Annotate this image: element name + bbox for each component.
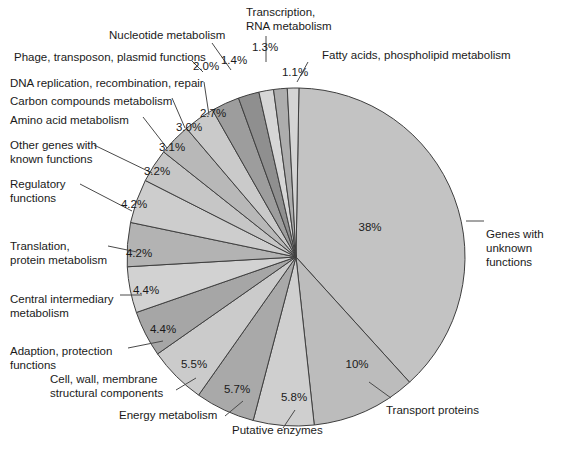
category-label-cell-wall-membrane: Cell, wall, membrane structural componen… bbox=[50, 372, 163, 400]
slice-percent-nucleotide: 1.4% bbox=[221, 54, 247, 66]
category-label-nucleotide: Nucleotide metabolism bbox=[109, 28, 225, 42]
slice-percent-other-known: 3.2% bbox=[144, 165, 170, 177]
slice-percent-central-intermediary: 4.4% bbox=[133, 284, 159, 296]
slice-percent-transcription-rna: 1.3% bbox=[252, 41, 278, 53]
slice-percent-fatty-acids: 1.1% bbox=[282, 66, 308, 78]
pie-slices-group bbox=[127, 88, 465, 426]
slice-percent-cell-wall-membrane: 5.5% bbox=[181, 358, 207, 370]
category-label-central-intermediary: Central intermediary metabolism bbox=[10, 292, 114, 320]
category-label-translation-protein: Translation, protein metabolism bbox=[10, 239, 107, 267]
slice-percent-adaption-protection: 4.4% bbox=[150, 323, 176, 335]
category-label-amino-acid: Amino acid metabolism bbox=[10, 113, 129, 127]
category-label-energy-metabolism: Energy metabolism bbox=[119, 408, 217, 422]
category-label-transcription-rna: Transcription, RNA metabolism bbox=[246, 5, 332, 33]
slice-percent-energy-metabolism: 5.7% bbox=[224, 383, 250, 395]
category-label-putative-enzymes: Putative enzymes bbox=[232, 423, 323, 437]
slice-percent-putative-enzymes: 5.8% bbox=[281, 391, 307, 403]
slice-percent-translation-protein: 4.2% bbox=[126, 247, 152, 259]
category-label-adaption-protection: Adaption, protection functions bbox=[10, 344, 112, 372]
category-label-fatty-acids: Fatty acids, phospholipid metabolism bbox=[322, 48, 511, 62]
slice-percent-regulatory-functions: 4.2% bbox=[121, 198, 147, 210]
slice-percent-genes-unknown: 38% bbox=[358, 221, 381, 233]
slice-percent-carbon-compounds: 3.0% bbox=[176, 121, 202, 133]
category-label-regulatory-functions: Regulatory functions bbox=[10, 177, 66, 205]
category-label-dna-replication: DNA replication, recombination, repair bbox=[10, 76, 204, 90]
slice-percent-amino-acid: 3.1% bbox=[159, 141, 185, 153]
category-label-other-known: Other genes with known functions bbox=[10, 138, 97, 166]
category-label-transport-proteins: Transport proteins bbox=[386, 403, 479, 417]
slice-percent-transport-proteins: 10% bbox=[345, 358, 368, 370]
slice-percent-dna-replication: 2.7% bbox=[200, 107, 226, 119]
category-label-phage-transposon: Phage, transposon, plasmid functions bbox=[14, 50, 206, 64]
pie-chart-figure: 38%10%5.8%5.7%5.5%4.4%4.4%4.2%4.2%3.2%3.… bbox=[0, 0, 577, 468]
category-label-genes-unknown: Genes with unknown functions bbox=[486, 227, 577, 269]
category-label-carbon-compounds: Carbon compounds metabolism bbox=[10, 94, 172, 108]
